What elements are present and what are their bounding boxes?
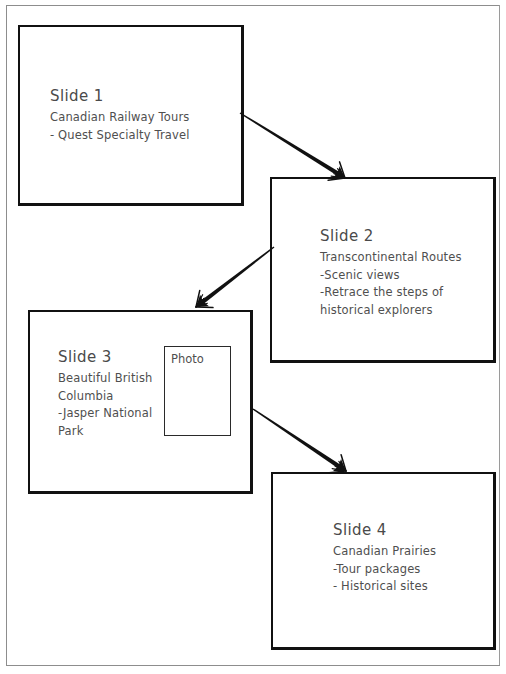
slide-box-4[interactable]: Slide 4 Canadian Prairies -Tour packages… — [271, 472, 496, 650]
slide-title-4: Slide 4 — [333, 521, 387, 539]
arrow-slide1-to-slide2 — [240, 112, 345, 180]
cut-off-header-text — [10, 0, 310, 3]
arrow-slide3-to-slide4 — [253, 408, 346, 472]
slide-body-2: Transcontinental Routes -Scenic views -R… — [320, 249, 490, 319]
slide-body-4: Canadian Prairies -Tour packages - Histo… — [333, 543, 493, 596]
storyboard-page: Slide 1 Canadian Railway Tours - Quest S… — [0, 0, 506, 674]
slide-title-2: Slide 2 — [320, 227, 374, 245]
slide-title-3: Slide 3 — [58, 348, 112, 366]
slide-body-1: Canadian Railway Tours - Quest Specialty… — [50, 109, 240, 144]
page-border-right — [499, 5, 500, 666]
photo-placeholder-box[interactable]: Photo — [164, 346, 231, 436]
slide-box-1[interactable]: Slide 1 Canadian Railway Tours - Quest S… — [18, 25, 244, 206]
photo-placeholder-label: Photo — [171, 352, 204, 366]
slide-box-2[interactable]: Slide 2 Transcontinental Routes -Scenic … — [270, 177, 496, 363]
arrow-slide2-to-slide3 — [196, 246, 274, 307]
slide-box-3[interactable]: Slide 3 Beautiful British Columbia -Jasp… — [28, 310, 253, 494]
page-border-top — [6, 5, 500, 6]
page-border-left — [6, 5, 7, 666]
slide-body-3: Beautiful British Columbia -Jasper Natio… — [58, 370, 163, 440]
slide-title-1: Slide 1 — [50, 87, 104, 105]
page-border-bottom — [6, 665, 500, 666]
